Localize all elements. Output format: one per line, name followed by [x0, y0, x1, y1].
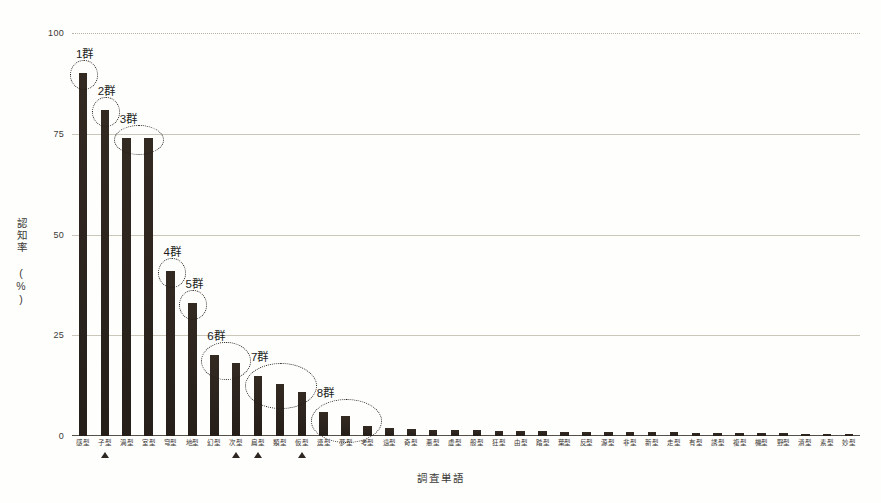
group-label: 4群 [164, 243, 181, 259]
bar [713, 433, 722, 436]
x-tick-label: 仮型 [295, 437, 309, 447]
x-tick-label: 誘型 [711, 437, 725, 447]
x-tick-label: 類型 [273, 437, 287, 447]
bar [166, 271, 175, 436]
bar [779, 433, 788, 436]
x-tick-label: 次型 [229, 437, 243, 447]
chart-container: 認知率 (%) 1群2群3群4群5群6群7群8群 0255075100 感型子型… [0, 0, 881, 503]
x-tick-label: 連型 [317, 437, 331, 447]
x-tick-label: 室型 [142, 437, 156, 447]
y-tick-label: 75 [24, 129, 64, 139]
x-tick-label: 妙型 [842, 437, 856, 447]
bar [188, 303, 197, 436]
x-tick-label: 非型 [623, 437, 637, 447]
x-tick-label: 野型 [777, 437, 791, 447]
bar [801, 434, 810, 436]
group-ellipse [158, 258, 186, 288]
x-tick-label: 複型 [733, 437, 747, 447]
bar [451, 430, 460, 436]
group-label: 1群 [76, 45, 93, 61]
x-tick-label: 源型 [601, 437, 615, 447]
y-tick-label: 100 [24, 28, 64, 38]
bar [516, 431, 525, 436]
x-tick-label: 般型 [470, 437, 484, 447]
y-tick-label: 0 [24, 431, 64, 441]
x-tick-label: 渦型 [120, 437, 134, 447]
x-tick-label: 潰型 [798, 437, 812, 447]
x-tick-label: 幻型 [207, 437, 221, 447]
bars-layer [72, 33, 860, 436]
x-tick-label: 葉型 [558, 437, 572, 447]
x-tick-label: 機型 [755, 437, 769, 447]
triangle-marker-icon [254, 452, 262, 458]
group-label: 7群 [251, 348, 268, 364]
plot-area: 1群2群3群4群5群6群7群8群 [72, 33, 860, 436]
x-tick-label: 由型 [514, 437, 528, 447]
group-ellipse [92, 97, 120, 127]
x-tick-label: 子型 [98, 437, 112, 447]
group-label: 5群 [185, 275, 202, 291]
x-tick-label: 虚型 [448, 437, 462, 447]
x-tick-label: 新型 [645, 437, 659, 447]
x-tick-label: 感型 [76, 437, 90, 447]
x-tick-label: 有型 [689, 437, 703, 447]
bar [823, 434, 832, 436]
group-label: 6群 [207, 327, 224, 343]
x-tick-label: 反型 [580, 437, 594, 447]
bar [845, 434, 854, 436]
bar [626, 432, 635, 436]
group-ellipse [245, 363, 317, 409]
bar [648, 432, 657, 436]
bar [560, 432, 569, 436]
x-tick-label: 踏型 [536, 437, 550, 447]
x-axis-ticks: 感型子型渦型室型穹型地型幻型次型扁型類型仮型連型夢型考型遠型奇型悪型虚型般型狂型… [72, 437, 860, 451]
y-tick-label: 25 [24, 330, 64, 340]
bar [495, 431, 504, 436]
x-axis-title: 調査単語 [0, 470, 881, 485]
x-tick-label: 穹型 [164, 437, 178, 447]
marker-row [72, 452, 860, 464]
bar [582, 432, 591, 436]
x-tick-label: 狂型 [492, 437, 506, 447]
bar [473, 430, 482, 436]
x-tick-label: 扁型 [251, 437, 265, 447]
bar [735, 433, 744, 436]
bar [122, 138, 131, 436]
x-tick-label: 遠型 [383, 437, 397, 447]
group-label: 8群 [317, 384, 334, 400]
bar [144, 138, 153, 436]
triangle-marker-icon [298, 452, 306, 458]
bar [79, 73, 88, 436]
group-label: 3群 [120, 110, 137, 126]
x-tick-label: 奇型 [404, 437, 418, 447]
bar [429, 430, 438, 436]
triangle-marker-icon [101, 452, 109, 458]
bar [757, 433, 766, 436]
bar [538, 431, 547, 436]
y-tick-label: 50 [24, 230, 64, 240]
bar [407, 429, 416, 436]
group-ellipse [114, 125, 164, 155]
x-tick-label: 悪型 [426, 437, 440, 447]
bar [692, 433, 701, 436]
group-label: 2群 [98, 82, 115, 98]
bar [101, 110, 110, 436]
x-tick-label: 夢型 [339, 437, 353, 447]
x-tick-label: 地型 [186, 437, 200, 447]
bar [604, 432, 613, 436]
x-tick-label: 素型 [820, 437, 834, 447]
triangle-marker-icon [232, 452, 240, 458]
bar [385, 428, 394, 436]
bar [670, 432, 679, 436]
x-tick-label: 走型 [667, 437, 681, 447]
x-tick-label: 考型 [361, 437, 375, 447]
